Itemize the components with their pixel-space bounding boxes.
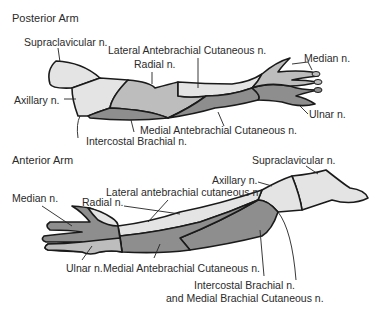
posterior-fingertip xyxy=(314,88,322,93)
anterior-axillary-label: Axillary n. xyxy=(212,174,258,186)
anterior-lateral-antebrachial-label: Lateral antebrachial cutaneous n. xyxy=(106,186,261,198)
posterior-axillary-label: Axillary n. xyxy=(14,94,60,106)
anterior-medial-brachial-label: and Medial Brachial Cutaneous n. xyxy=(166,292,324,304)
posterior-arm-title: Posterior Arm xyxy=(12,12,79,24)
leader-line xyxy=(260,230,264,276)
anterior-median-label: Median n. xyxy=(12,192,58,204)
posterior-fingertip xyxy=(314,80,322,85)
leader-line xyxy=(300,106,308,114)
posterior-intercostal-brachial-label: Intercostal Brachial n. xyxy=(86,135,187,147)
posterior-median-label: Median n. xyxy=(304,52,350,64)
anterior-radial-label: Radial n. xyxy=(82,196,123,208)
posterior-ulnar-hand-region xyxy=(252,84,318,105)
posterior-axilla-line xyxy=(77,116,80,138)
leader-line xyxy=(124,206,180,214)
posterior-supraclavicular-label: Supraclavicular n. xyxy=(24,36,107,48)
anterior-medial-antebrachial-label: Medial Antebrachial Cutaneous n. xyxy=(103,262,260,274)
posterior-radial-label: Radial n. xyxy=(134,58,175,70)
anterior-ulnar-label: Ulnar n. xyxy=(66,262,103,274)
anterior-axilla-line xyxy=(278,212,296,280)
leader-line xyxy=(58,48,60,62)
posterior-ulnar-label: Ulnar n. xyxy=(309,108,346,120)
posterior-fingertip xyxy=(312,72,320,77)
anterior-intercostal-brachial-label: Intercostal Brachial n. xyxy=(194,279,295,291)
anterior-supraclavicular-label: Supraclavicular n. xyxy=(252,154,335,166)
posterior-lateral-antebrachial-label: Lateral Antebrachial Cutaneous n. xyxy=(108,44,266,56)
anterior-supraclavicular-region xyxy=(292,170,368,210)
leader-line xyxy=(131,120,134,132)
anterior-arm-title: Anterior Arm xyxy=(12,154,73,166)
